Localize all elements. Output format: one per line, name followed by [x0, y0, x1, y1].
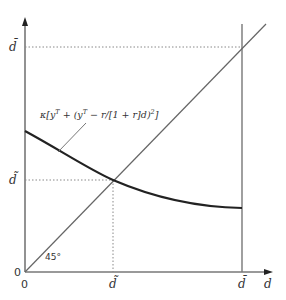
x-origin-label: 0	[21, 278, 28, 291]
y-axis-arrow-icon	[22, 17, 28, 26]
x-axis-arrow-icon	[264, 269, 273, 275]
forty-five-degree-line	[25, 24, 266, 272]
x-axis-label: d	[264, 277, 272, 291]
curve-label: κ[yT + (yT − r/[1 + r]d)2]	[39, 108, 159, 120]
x-tick-d-tilde: d̃	[109, 275, 119, 291]
y-tick-d-bar: d̄	[9, 38, 19, 54]
forty-five-degree-label: 45°	[45, 252, 61, 262]
y-tick-d-tilde: d̃	[9, 171, 19, 187]
kappa-curve	[25, 131, 242, 208]
curve-label-leader-line	[58, 123, 86, 152]
diagram: κ[yT + (yT − r/[1 + r]d)2] 45° d̄ d̃ 0 0…	[0, 0, 286, 300]
x-tick-d-bar: d̄	[238, 275, 248, 291]
y-origin-label: 0	[14, 266, 21, 279]
